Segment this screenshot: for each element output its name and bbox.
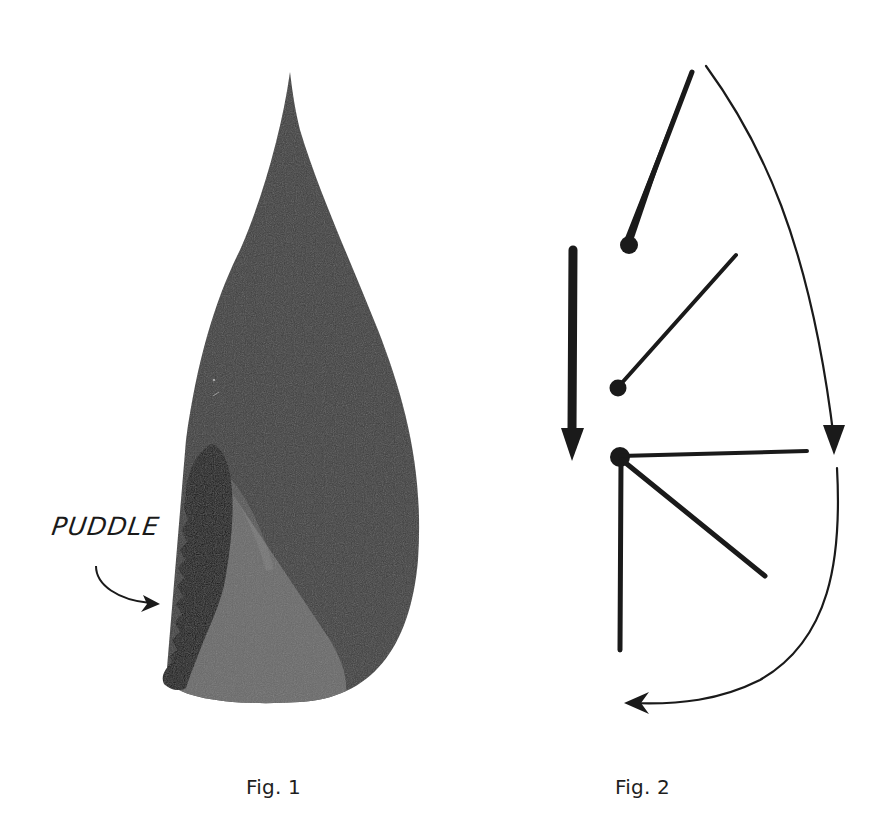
figures-canvas <box>0 0 883 825</box>
bold-down-arrow-icon <box>561 250 584 461</box>
fig2-diagram <box>561 66 845 714</box>
fig2-caption: Fig. 2 <box>615 775 670 799</box>
fig1-teardrop <box>163 72 419 710</box>
fig1-caption: Fig. 1 <box>246 775 301 799</box>
stroke-middle <box>610 255 737 397</box>
outline-arrow-right <box>706 66 845 455</box>
puddle-arrow <box>96 566 160 612</box>
puddle-label: PUDDLE <box>50 512 162 541</box>
stroke-fan <box>610 447 807 650</box>
curved-return-arrow <box>624 468 838 714</box>
illustration-page: PUDDLE Fig. 1 Fig. 2 <box>0 0 883 825</box>
stroke-top <box>620 72 692 254</box>
